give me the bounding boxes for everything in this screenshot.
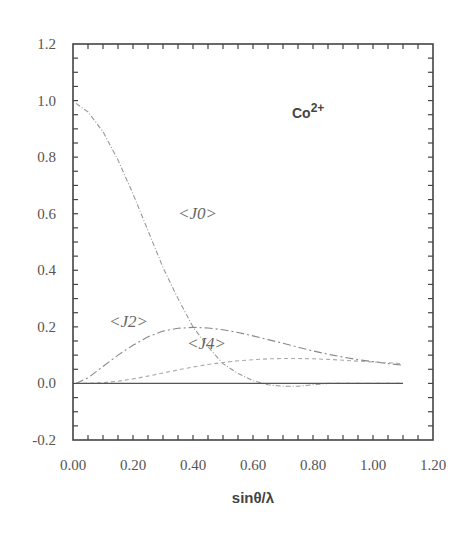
y-tick-label: 1.2 — [37, 36, 56, 52]
y-tick-label: -0.2 — [32, 432, 56, 448]
axis-ticks — [73, 44, 433, 440]
y-tick-label: 0.4 — [37, 262, 56, 278]
y-tick-label: 0.6 — [37, 206, 56, 222]
x-tick-label: 0.20 — [120, 457, 146, 473]
x-axis-title: sinθ/λ — [232, 489, 275, 506]
y-tick-label: 1.0 — [37, 93, 56, 109]
y-tick-label: 0.0 — [37, 375, 56, 391]
y-axis-tick-labels: -0.20.00.20.40.60.81.01.2 — [32, 36, 56, 448]
x-tick-label: 0.80 — [300, 457, 326, 473]
form-factor-chart: -0.20.00.20.40.60.81.01.2 0.000.200.400.… — [0, 0, 467, 538]
label-j4: <J4> — [187, 334, 226, 353]
curve-j0 — [76, 103, 403, 386]
y-tick-label: 0.8 — [37, 149, 56, 165]
curve-j2 — [76, 327, 403, 383]
y-tick-label: 0.2 — [37, 319, 56, 335]
curve-j4 — [76, 359, 403, 384]
x-tick-label: 0.40 — [180, 457, 206, 473]
label-j2: <J2> — [109, 312, 148, 331]
ion-annotation: Co2+ — [292, 101, 324, 121]
label-j0: <J0> — [178, 204, 217, 223]
x-axis-tick-labels: 0.000.200.400.600.801.001.20 — [60, 457, 446, 473]
x-tick-label: 1.20 — [420, 457, 446, 473]
plot-frame — [73, 44, 433, 440]
x-tick-label: 0.00 — [60, 457, 86, 473]
x-tick-label: 0.60 — [240, 457, 266, 473]
x-tick-label: 1.00 — [360, 457, 386, 473]
curve-labels: <J0><J2><J4> — [109, 204, 226, 353]
data-curves — [76, 103, 403, 386]
